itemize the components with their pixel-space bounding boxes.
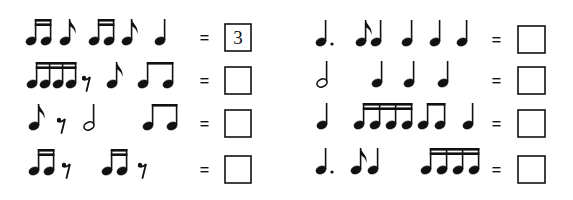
- quarter-note-icon: [429, 20, 442, 48]
- quarter-note-icon: [462, 103, 475, 131]
- answer-box[interactable]: [518, 110, 545, 137]
- equals-sign: [201, 78, 209, 83]
- beam: [430, 148, 480, 151]
- eighth-pair-note-icon: [142, 104, 179, 132]
- beam: [35, 23, 52, 26]
- eighth-note-icon: [355, 20, 372, 48]
- dotted-quarter-note-icon: [315, 20, 334, 48]
- eighth-note-icon: [59, 19, 76, 47]
- rest-stroke: [83, 77, 90, 91]
- exercise-row-left-4: [28, 149, 251, 183]
- exercise-row-left-1: 3: [25, 19, 251, 51]
- exercise-row-right-2: [316, 61, 545, 94]
- answer-box[interactable]: [225, 67, 251, 94]
- eighth-rest-note-icon: [82, 76, 90, 91]
- beam: [38, 153, 55, 156]
- eighth-rest-note-icon: [138, 163, 146, 178]
- quarter-note-icon: [403, 61, 416, 89]
- eighth-note-icon: [350, 148, 367, 176]
- equals-sign: [493, 167, 501, 172]
- dotted-quarter-note-icon: [315, 148, 334, 176]
- note-flag: [361, 148, 367, 163]
- equals-sign: [493, 78, 501, 83]
- note-flag: [117, 62, 123, 77]
- eighth-rest-note-icon: [62, 163, 70, 178]
- answer-box[interactable]: [518, 67, 545, 94]
- rhythm-worksheet: 3: [0, 0, 573, 200]
- half-note-icon: [83, 104, 96, 132]
- augmentation-dot: [330, 42, 333, 45]
- beam: [427, 103, 446, 106]
- equals-sign: [201, 121, 209, 126]
- quarter-note-icon: [154, 19, 167, 47]
- eighth-rest-note-icon: [57, 118, 65, 133]
- beam: [363, 103, 413, 106]
- note-flag: [70, 19, 76, 34]
- equals-sign: [201, 35, 209, 40]
- note-flag: [366, 20, 372, 35]
- half-note-icon: [316, 61, 329, 89]
- beam: [152, 104, 178, 107]
- beam: [38, 149, 55, 152]
- rest-stroke: [139, 164, 146, 178]
- beam: [111, 153, 128, 156]
- beam: [111, 149, 128, 152]
- quarter-note-icon: [401, 20, 414, 48]
- sixteenth-pair-note-icon: [101, 149, 129, 177]
- eighth-pair-note-icon: [137, 62, 175, 90]
- note-flag: [132, 19, 138, 34]
- eighth-pair-note-icon: [417, 103, 447, 131]
- sixteenth-pair-note-icon: [88, 19, 116, 47]
- sixteenth-pair-note-icon: [28, 149, 56, 177]
- beam: [430, 152, 480, 155]
- sixteenth-quad-note-icon: [353, 103, 414, 131]
- augmentation-dot: [330, 170, 333, 173]
- beam: [98, 23, 115, 26]
- beam: [98, 19, 115, 22]
- sixteenth-quad-note-icon: [26, 62, 78, 90]
- sixteenth-pair-note-icon: [25, 19, 53, 47]
- quarter-note-icon: [316, 103, 329, 131]
- quarter-note-icon: [437, 61, 450, 89]
- eighth-note-icon: [28, 104, 45, 132]
- exercise-row-right-1: [315, 20, 545, 53]
- answer-box[interactable]: [518, 26, 545, 53]
- answer-box[interactable]: [225, 110, 251, 137]
- answer-box[interactable]: [225, 156, 251, 183]
- equals-sign: [493, 37, 501, 42]
- eighth-note-icon: [106, 62, 123, 90]
- sixteenth-quad-note-icon: [420, 148, 481, 176]
- exercise-row-left-3: [28, 104, 251, 137]
- equals-sign: [493, 121, 501, 126]
- beam: [147, 62, 174, 65]
- quarter-note-icon: [367, 148, 380, 176]
- answer-value: 3: [233, 27, 243, 48]
- beam: [36, 66, 77, 69]
- beam: [35, 19, 52, 22]
- rest-stroke: [63, 164, 70, 178]
- eighth-note-icon: [121, 19, 138, 47]
- quarter-note-icon: [456, 20, 469, 48]
- exercise-row-right-4: [315, 148, 545, 183]
- quarter-note-icon: [371, 61, 384, 89]
- beam: [363, 107, 413, 110]
- exercise-row-left-2: [26, 62, 251, 94]
- equals-sign: [201, 167, 209, 172]
- beam: [36, 62, 77, 65]
- rest-stroke: [58, 119, 65, 133]
- exercise-row-right-3: [316, 103, 545, 137]
- answer-box[interactable]: [518, 156, 545, 183]
- note-flag: [39, 104, 45, 119]
